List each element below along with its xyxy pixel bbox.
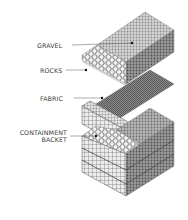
containment-label-line1: CONTAINMENT xyxy=(14,129,67,136)
gravel-leader-dot xyxy=(131,42,133,44)
exploded-diagram xyxy=(0,0,188,220)
rocks-label: ROCKS xyxy=(40,67,62,74)
gravel-label: GRAVEL xyxy=(37,42,62,49)
containment-label: CONTAINMENT BACKET xyxy=(14,129,67,143)
rocks-leader-dot xyxy=(85,69,87,71)
containment-leader-dot xyxy=(95,135,97,137)
diagram-canvas: GRAVEL ROCKS FABRIC CONTAINMENT BACKET xyxy=(0,0,188,220)
fabric-label: FABRIC xyxy=(40,95,63,102)
containment-label-line2: BACKET xyxy=(14,136,67,143)
fabric-leader-dot xyxy=(101,97,103,99)
